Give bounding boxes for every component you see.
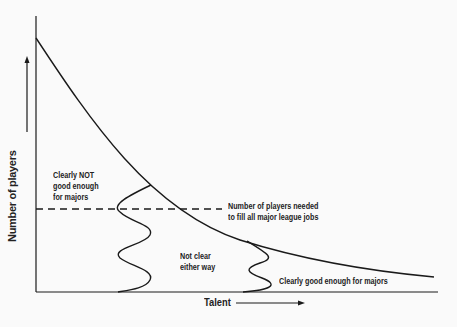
label-line: Clearly NOT	[53, 170, 99, 181]
label-line: Number of players needed	[228, 201, 318, 212]
arrow-up-icon	[25, 56, 30, 63]
boundary-wave-left	[117, 185, 151, 292]
label-line: for majors	[53, 192, 99, 203]
label-clearly-good: Clearly good enough for majors	[279, 276, 388, 287]
label-line: either way	[180, 262, 215, 273]
boundary-wave-right	[243, 241, 271, 292]
label-not-good-enough: Clearly NOT good enough for majors	[53, 170, 99, 203]
diagram-canvas	[0, 0, 457, 327]
talent-distribution-curve	[36, 38, 434, 277]
label-line: to fill all major league jobs	[228, 212, 318, 223]
label-threshold: Number of players needed to fill all maj…	[228, 201, 318, 223]
arrow-right-icon	[298, 301, 305, 306]
label-line: Not clear	[180, 251, 215, 262]
y-axis-label: Number of players	[6, 151, 18, 242]
x-axis-label: Talent	[204, 296, 231, 308]
label-line: good enough	[53, 181, 99, 192]
label-not-clear: Not clear either way	[180, 251, 215, 273]
